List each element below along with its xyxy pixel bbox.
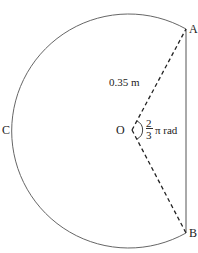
label-o: O: [116, 124, 125, 136]
angle-unit: π rad: [155, 124, 177, 136]
radius-oa: [132, 29, 186, 130]
label-b: B: [189, 227, 197, 239]
angle-numerator: 2: [146, 118, 152, 128]
radius-label: 0.35 m: [109, 76, 140, 88]
label-a: A: [189, 23, 198, 35]
label-c: C: [2, 124, 10, 136]
angle-denominator: 3: [146, 130, 152, 140]
radius-ob: [132, 130, 186, 233]
angle-arc: [137, 121, 143, 139]
diagram-canvas: A B C O 0.35 m 2 3 π rad: [0, 0, 198, 253]
